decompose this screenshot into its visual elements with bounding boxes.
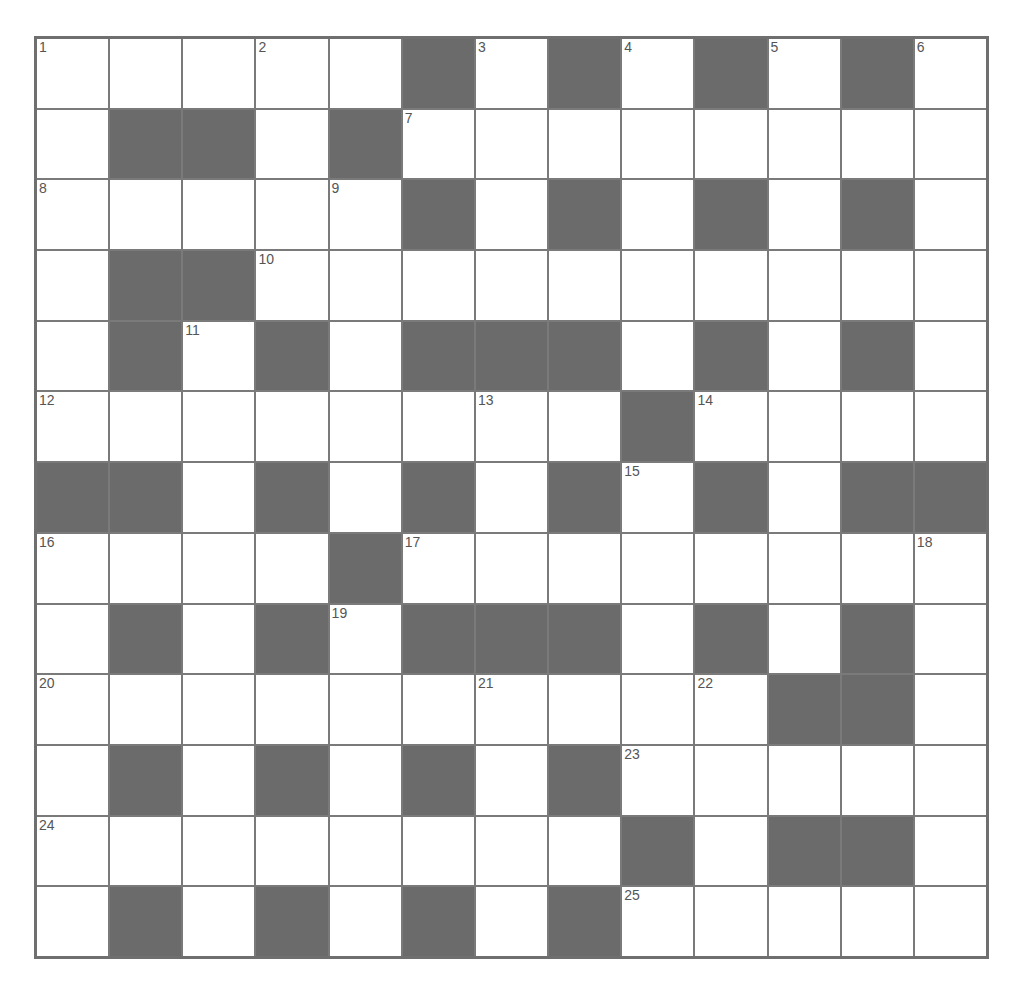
letter-cell[interactable] — [476, 180, 547, 249]
letter-cell[interactable] — [476, 534, 547, 603]
letter-cell[interactable]: 17 — [403, 534, 474, 603]
letter-cell[interactable] — [695, 534, 766, 603]
letter-cell[interactable] — [842, 746, 913, 815]
letter-cell[interactable] — [769, 180, 840, 249]
letter-cell[interactable]: 20 — [37, 675, 108, 744]
letter-cell[interactable] — [256, 180, 327, 249]
letter-cell[interactable] — [37, 605, 108, 674]
letter-cell[interactable]: 18 — [915, 534, 986, 603]
letter-cell[interactable] — [622, 110, 693, 179]
letter-cell[interactable] — [110, 817, 181, 886]
letter-cell[interactable] — [476, 817, 547, 886]
letter-cell[interactable] — [769, 534, 840, 603]
letter-cell[interactable] — [256, 534, 327, 603]
letter-cell[interactable] — [769, 463, 840, 532]
letter-cell[interactable]: 4 — [622, 39, 693, 108]
letter-cell[interactable] — [476, 746, 547, 815]
letter-cell[interactable] — [256, 675, 327, 744]
letter-cell[interactable] — [695, 817, 766, 886]
letter-cell[interactable] — [622, 605, 693, 674]
letter-cell[interactable] — [549, 534, 620, 603]
letter-cell[interactable] — [549, 392, 620, 461]
letter-cell[interactable] — [183, 675, 254, 744]
letter-cell[interactable] — [476, 887, 547, 956]
letter-cell[interactable] — [330, 887, 401, 956]
letter-cell[interactable] — [769, 746, 840, 815]
letter-cell[interactable] — [622, 322, 693, 391]
letter-cell[interactable]: 25 — [622, 887, 693, 956]
letter-cell[interactable]: 12 — [37, 392, 108, 461]
letter-cell[interactable] — [330, 39, 401, 108]
letter-cell[interactable] — [695, 251, 766, 320]
letter-cell[interactable]: 1 — [37, 39, 108, 108]
letter-cell[interactable] — [330, 817, 401, 886]
letter-cell[interactable] — [476, 251, 547, 320]
letter-cell[interactable]: 2 — [256, 39, 327, 108]
letter-cell[interactable] — [37, 746, 108, 815]
letter-cell[interactable] — [915, 817, 986, 886]
letter-cell[interactable] — [256, 817, 327, 886]
letter-cell[interactable] — [549, 675, 620, 744]
letter-cell[interactable] — [183, 817, 254, 886]
letter-cell[interactable] — [256, 392, 327, 461]
letter-cell[interactable] — [622, 675, 693, 744]
letter-cell[interactable]: 3 — [476, 39, 547, 108]
letter-cell[interactable] — [915, 322, 986, 391]
letter-cell[interactable] — [110, 534, 181, 603]
letter-cell[interactable] — [842, 251, 913, 320]
letter-cell[interactable]: 15 — [622, 463, 693, 532]
letter-cell[interactable]: 24 — [37, 817, 108, 886]
letter-cell[interactable] — [476, 463, 547, 532]
letter-cell[interactable] — [915, 605, 986, 674]
letter-cell[interactable]: 11 — [183, 322, 254, 391]
letter-cell[interactable]: 5 — [769, 39, 840, 108]
letter-cell[interactable] — [769, 110, 840, 179]
letter-cell[interactable] — [915, 180, 986, 249]
letter-cell[interactable] — [769, 322, 840, 391]
letter-cell[interactable] — [330, 746, 401, 815]
letter-cell[interactable] — [695, 887, 766, 956]
letter-cell[interactable] — [110, 675, 181, 744]
letter-cell[interactable] — [183, 534, 254, 603]
letter-cell[interactable] — [915, 110, 986, 179]
letter-cell[interactable]: 21 — [476, 675, 547, 744]
letter-cell[interactable]: 7 — [403, 110, 474, 179]
letter-cell[interactable] — [915, 675, 986, 744]
letter-cell[interactable] — [915, 746, 986, 815]
letter-cell[interactable] — [183, 746, 254, 815]
letter-cell[interactable] — [695, 746, 766, 815]
letter-cell[interactable] — [622, 251, 693, 320]
letter-cell[interactable] — [915, 887, 986, 956]
letter-cell[interactable] — [842, 534, 913, 603]
letter-cell[interactable] — [915, 251, 986, 320]
letter-cell[interactable] — [330, 463, 401, 532]
letter-cell[interactable] — [769, 605, 840, 674]
letter-cell[interactable]: 19 — [330, 605, 401, 674]
letter-cell[interactable] — [403, 675, 474, 744]
letter-cell[interactable] — [183, 605, 254, 674]
letter-cell[interactable] — [183, 463, 254, 532]
letter-cell[interactable] — [183, 887, 254, 956]
letter-cell[interactable] — [37, 110, 108, 179]
letter-cell[interactable] — [842, 392, 913, 461]
letter-cell[interactable] — [695, 110, 766, 179]
letter-cell[interactable] — [110, 392, 181, 461]
letter-cell[interactable] — [549, 251, 620, 320]
letter-cell[interactable] — [842, 887, 913, 956]
letter-cell[interactable] — [110, 39, 181, 108]
letter-cell[interactable] — [37, 887, 108, 956]
letter-cell[interactable] — [37, 322, 108, 391]
letter-cell[interactable] — [403, 392, 474, 461]
letter-cell[interactable] — [842, 110, 913, 179]
letter-cell[interactable]: 6 — [915, 39, 986, 108]
letter-cell[interactable] — [37, 251, 108, 320]
letter-cell[interactable] — [330, 392, 401, 461]
letter-cell[interactable] — [110, 180, 181, 249]
letter-cell[interactable] — [769, 887, 840, 956]
letter-cell[interactable] — [183, 392, 254, 461]
letter-cell[interactable] — [403, 817, 474, 886]
letter-cell[interactable] — [476, 110, 547, 179]
letter-cell[interactable] — [769, 251, 840, 320]
letter-cell[interactable] — [915, 392, 986, 461]
letter-cell[interactable] — [183, 39, 254, 108]
